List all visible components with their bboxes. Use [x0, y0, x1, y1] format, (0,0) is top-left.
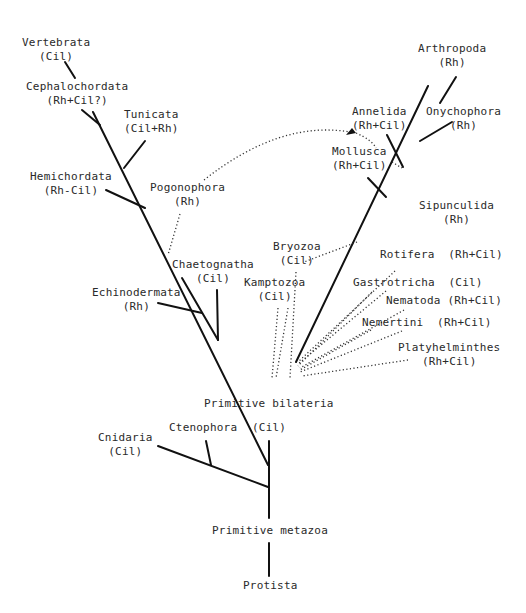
- taxon-code: (Rh): [150, 195, 225, 209]
- taxon-code: (Cil): [252, 421, 286, 435]
- taxon-code: (Cil): [273, 254, 321, 268]
- taxon-name: Protista: [243, 579, 298, 593]
- taxon-name: Hemichordata: [30, 170, 112, 184]
- taxon-code: (Rh-Cil): [30, 184, 112, 198]
- taxon-code: (Rh): [419, 213, 494, 227]
- label-sipunculida: Sipunculida(Rh): [419, 199, 494, 227]
- branch-pogonophora: [168, 214, 180, 255]
- taxon-code: (Rh+Cil): [398, 355, 500, 369]
- taxon-name: Primitive bilateria: [204, 397, 334, 411]
- label-onychophora: Onychophora(Rh): [426, 105, 501, 133]
- branch-ctenophora: [206, 441, 211, 465]
- label-mollusca: Mollusca(Rh+Cil): [332, 145, 387, 173]
- taxon-code: (Rh+Cil): [448, 248, 503, 261]
- branch-kamptozoa-2: [276, 308, 288, 378]
- branch-nemertini-2: [300, 331, 402, 372]
- taxon-code: (Rh): [92, 300, 181, 314]
- branch-chaetognatha: [217, 290, 218, 340]
- taxon-code: (Cil+Rh): [124, 122, 179, 136]
- taxon-name: Echinodermata: [92, 286, 181, 300]
- branch-cnidaria: [158, 446, 268, 487]
- taxon-name: Sipunculida: [419, 199, 494, 213]
- label-cephalochordata: Cephalochordata(Rh+Cil?): [26, 80, 128, 108]
- taxon-name: Arthropoda: [418, 42, 486, 56]
- label-nematoda: Nematoda (Rh+Cil): [386, 294, 502, 308]
- taxon-name: Gastrotricha: [353, 276, 435, 289]
- label-pogonophora: Pogonophora(Rh): [150, 181, 225, 209]
- taxon-code: (Cil): [22, 50, 90, 64]
- label-primitive-bilateria: Primitive bilateria: [204, 397, 334, 411]
- taxon-name: Onychophora: [426, 105, 501, 119]
- taxon-name: Primitive metazoa: [212, 524, 328, 538]
- label-tunicata: Tunicata(Cil+Rh): [124, 108, 179, 136]
- taxon-code: (Cil): [449, 276, 483, 289]
- taxon-code: (Rh+Cil): [352, 119, 407, 133]
- label-ctenophora: Ctenophora: [169, 421, 237, 435]
- taxon-name: Chaetognatha: [172, 258, 254, 272]
- taxon-name: Nemertini: [362, 316, 423, 329]
- taxon-name: Bryozoa: [273, 240, 321, 254]
- taxon-code: (Cil): [172, 272, 254, 286]
- taxon-code: (Rh): [426, 119, 501, 133]
- branch-vertebrata: [65, 62, 75, 78]
- taxon-name: Pogonophora: [150, 181, 225, 195]
- label-nemertini: Nemertini (Rh+Cil): [362, 316, 492, 330]
- taxon-code: (Rh): [418, 56, 486, 70]
- label-protista: Protista: [243, 579, 298, 593]
- label-rotifera: Rotifera (Rh+Cil): [380, 248, 503, 262]
- taxon-name: Platyhelminthes: [398, 341, 500, 355]
- taxon-code: (Rh+Cil): [447, 294, 502, 307]
- label-kamptozoa: Kamptozoa(Cil): [244, 276, 305, 304]
- taxon-code: (Cil): [244, 290, 305, 304]
- taxon-name: Ctenophora: [169, 421, 237, 435]
- label-echinodermata: Echinodermata(Rh): [92, 286, 181, 314]
- label-annelida: Annelida(Rh+Cil): [352, 105, 407, 133]
- label-hemichordata: Hemichordata(Rh-Cil): [30, 170, 112, 198]
- label-arthropoda: Arthropoda(Rh): [418, 42, 486, 70]
- taxon-name: Rotifera: [380, 248, 435, 261]
- branch-arthropoda: [440, 77, 456, 103]
- link-pogonophora-annelida: [204, 130, 350, 180]
- taxon-name: Kamptozoa: [244, 276, 305, 290]
- taxon-name: Tunicata: [124, 108, 179, 122]
- label-bilateria-code: (Cil): [252, 421, 286, 435]
- label-chaetognatha: Chaetognatha(Cil): [172, 258, 254, 286]
- branch-cephalochordata: [82, 110, 100, 125]
- branch-annelida: [387, 135, 403, 167]
- taxon-name: Annelida: [352, 105, 407, 119]
- taxon-name: Vertebrata: [22, 36, 90, 50]
- taxon-name: Cnidaria: [98, 431, 153, 445]
- taxon-code: (Rh+Cil?): [26, 94, 128, 108]
- branch-tunicata: [124, 141, 145, 168]
- label-platyhelminthes: Platyhelminthes(Rh+Cil): [398, 341, 500, 369]
- label-bryozoa: Bryozoa(Cil): [273, 240, 321, 268]
- branch-platyhelminthes: [302, 360, 408, 376]
- label-gastrotricha: Gastrotricha (Cil): [353, 276, 483, 290]
- label-primitive-metazoa: Primitive metazoa: [212, 524, 328, 538]
- label-cnidaria: Cnidaria(Cil): [98, 431, 153, 459]
- branch-kamptozoa: [272, 308, 278, 378]
- taxon-name: Mollusca: [332, 145, 387, 159]
- taxon-code: (Rh+Cil): [437, 316, 492, 329]
- taxon-name: Nematoda: [386, 294, 441, 307]
- taxon-name: Cephalochordata: [26, 80, 128, 94]
- taxon-code: (Rh+Cil): [332, 159, 387, 173]
- taxon-code: (Cil): [98, 445, 153, 459]
- label-vertebrata: Vertebrata(Cil): [22, 36, 90, 64]
